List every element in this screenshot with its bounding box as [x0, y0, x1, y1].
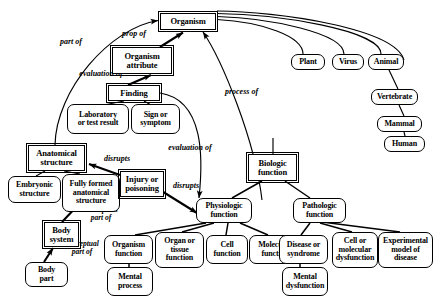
edge-label-disrupts-1: disrupts	[97, 155, 137, 163]
edge-path-expmodel	[322, 222, 400, 232]
edge-animal-extra	[217, 11, 404, 60]
node-sign-or-symptom[interactable]: Sign or symptom	[131, 104, 180, 134]
edge-evaluation-of-1	[128, 75, 151, 85]
edge-phys-molecular-fn	[240, 223, 268, 235]
edge-prop-of	[160, 33, 183, 48]
node-organ-or-tissue-function[interactable]: Organ or tissue function	[155, 232, 204, 268]
edge-vertebrate-mammal	[399, 105, 404, 116]
node-laboratory-or-test-result[interactable]: Laboratory or test result	[67, 104, 129, 134]
node-experimental-model-of-disease[interactable]: Experimental model of disease	[378, 232, 433, 268]
node-cell-or-molecular-dysfunction[interactable]: Cell or molecular dysfunction	[332, 232, 378, 268]
node-mental-process[interactable]: Mental process	[107, 267, 153, 296]
edge-phys-organ-fn	[182, 223, 214, 232]
node-cell-function[interactable]: Cell function	[206, 235, 248, 264]
node-embryonic-structure[interactable]: Embryonic structure	[8, 176, 61, 203]
edge-plant-organism	[217, 20, 303, 55]
semantic-network-diagram: Organism Organism attribute Finding Labo…	[0, 0, 442, 301]
edge-path-cellmol	[320, 223, 352, 232]
node-plant[interactable]: Plant	[291, 54, 325, 70]
node-fully-formed-anatomical-structure[interactable]: Fully formed anatomical structure	[62, 174, 120, 212]
edge-path-disease	[301, 223, 310, 235]
node-animal[interactable]: Animal	[368, 54, 404, 70]
edge-phys-cell-fn	[226, 223, 228, 235]
edge-animal-organism	[217, 14, 381, 55]
node-finding[interactable]: Finding	[108, 85, 160, 101]
node-body-system[interactable]: Body system	[44, 222, 79, 247]
edge-biologic-physiologic	[232, 181, 262, 198]
node-organism[interactable]: Organism	[160, 13, 216, 30]
node-organism-function[interactable]: Organism function	[104, 235, 153, 264]
edge-label-prop-of: prop of	[116, 30, 152, 38]
node-anatomical-structure[interactable]: Anatomical structure	[28, 145, 85, 171]
node-mammal[interactable]: Mammal	[377, 116, 422, 132]
edge-conceptual-part-of-2	[44, 248, 53, 262]
node-pathologic-function[interactable]: Pathologic function	[293, 198, 346, 223]
node-disease-or-syndrome[interactable]: Disease or syndrome	[279, 235, 328, 264]
node-injury-or-poisoning[interactable]: Injury or poisoning	[120, 171, 164, 197]
edge-animal-vertebrate	[389, 70, 398, 89]
node-mental-dysfunction[interactable]: Mental dysfunction	[282, 267, 328, 296]
edge-virus-organism	[217, 17, 344, 55]
node-biologic-function[interactable]: Biologic function	[248, 154, 297, 181]
edge-label-part-of: part of	[53, 38, 89, 46]
edge-label-process-of: process of	[218, 88, 265, 96]
node-vertebrate[interactable]: Vertebrate	[371, 89, 418, 105]
node-physiologic-function[interactable]: Physiologic function	[196, 198, 252, 223]
node-body-part[interactable]: Body part	[25, 262, 68, 287]
edge-label-disrupts-2: disrupts	[166, 182, 206, 190]
edge-label-evaluation-of-2: evaluation of	[161, 144, 219, 152]
edge-disrupts-2	[160, 190, 197, 213]
edge-biologic-pathologic	[285, 181, 310, 198]
node-virus[interactable]: Virus	[332, 54, 364, 70]
node-human[interactable]: Human	[384, 136, 425, 152]
node-organism-attribute[interactable]: Organism attribute	[112, 47, 172, 74]
